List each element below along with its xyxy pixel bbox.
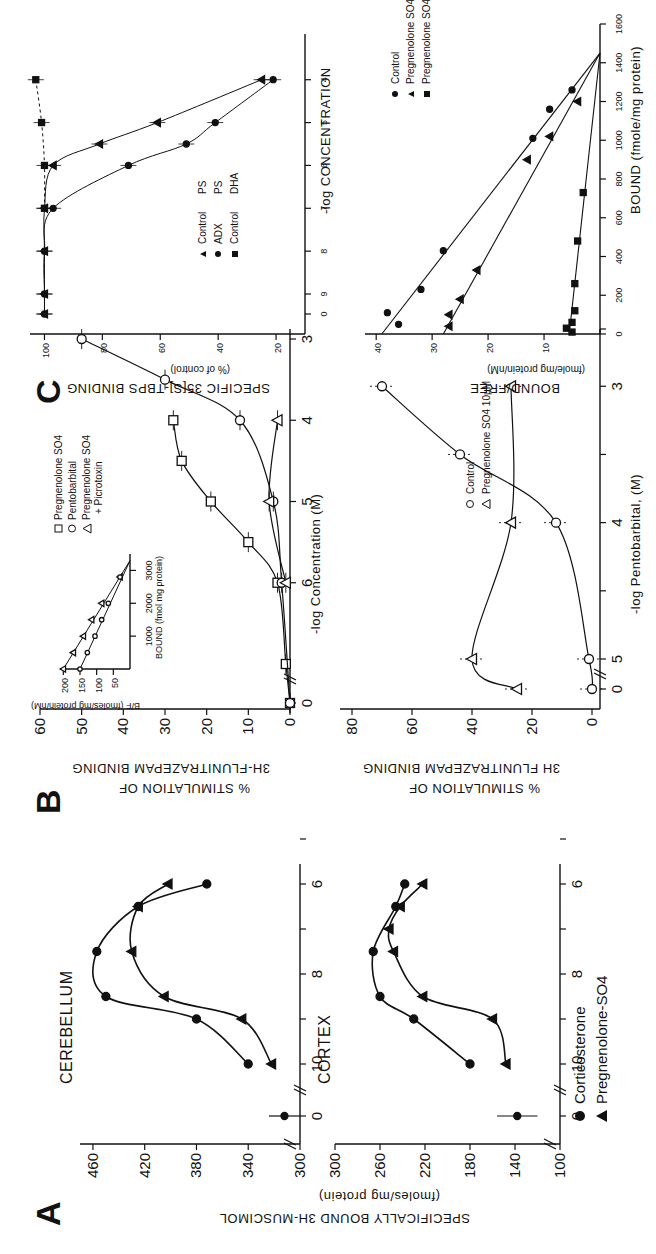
y-tick-label: 60: [403, 718, 420, 735]
data-point: [488, 1014, 497, 1024]
series-line: [36, 80, 45, 209]
data-point: [183, 141, 189, 147]
chart-c-top: 100806040200987654: [28, 34, 329, 358]
panel-b-bottom-legend: Control Pregnenolone SO4 10µM: [465, 381, 492, 509]
legend-item-corticosterone: Corticosterone: [571, 1006, 588, 1104]
y-tick-label: 0: [281, 718, 298, 726]
x-tick-label: 10: [308, 1056, 325, 1073]
x-tick-label: 4: [608, 518, 625, 526]
data-point: [588, 685, 597, 694]
panel-b-top-ylabel2: 3H-FLUNITRAZEPAM BINDING: [72, 761, 270, 776]
y-tick-label: 0: [583, 718, 600, 726]
data-point: [286, 699, 295, 708]
chart-a-cortex: 30026022018014010001086: [326, 839, 585, 1178]
x-tick-label: 6: [319, 163, 329, 168]
data-point: [41, 205, 47, 211]
y-tick-label: 80: [343, 718, 360, 735]
panel-b-top-xlabel: -log Concentration (M): [308, 494, 323, 634]
data-point: [163, 879, 172, 889]
panel-letter-b: B: [29, 789, 67, 814]
series-line: [130, 884, 271, 1064]
y-tick-label: 20: [485, 343, 495, 353]
data-point: [456, 295, 463, 303]
y-tick-label: 200: [60, 678, 70, 693]
data-point: [563, 325, 569, 331]
data-point: [270, 77, 276, 83]
data-point: [41, 311, 47, 317]
legend-item-pentobarbital: Pentobarbital: [67, 461, 78, 520]
data-point: [369, 948, 377, 956]
x-tick-label: 1200: [614, 91, 624, 111]
x-tick-label: 3000: [144, 560, 154, 580]
panel-b-bottom-ylabel1: % STIMULATION OF: [409, 781, 540, 796]
data-point: [169, 416, 178, 425]
x-tick-label: 5: [319, 120, 329, 125]
panel-letter-c: C: [29, 379, 67, 404]
data-point: [530, 135, 536, 141]
legend-item-ps: PS: [213, 180, 224, 194]
panel-c-bottom-legend: Control Pregnenolone SO4 (10µM) Pregneno…: [390, 0, 432, 97]
series-line: [472, 386, 517, 689]
series-line: [44, 80, 273, 314]
data-point: [572, 308, 578, 314]
panel-a-legend: Corticosterone Pregnenolone-SO4: [571, 976, 610, 1122]
panel-c-bottom-ylabel2: (fmole/mg protein/nM): [487, 364, 585, 375]
x-tick-label: 4: [319, 77, 329, 82]
panel-c-top-ylabel2: (% of control): [171, 364, 230, 375]
data-point: [547, 106, 553, 112]
inset-ylabel: B/F (fmoles/mg protein/nM): [31, 701, 140, 711]
data-point: [236, 416, 245, 425]
x-tick-label: 8: [308, 970, 325, 978]
series-line: [372, 884, 470, 1064]
data-point: [575, 238, 581, 244]
data-point: [33, 77, 39, 83]
x-tick-label: 6: [568, 880, 585, 888]
y-tick-label: 340: [239, 1153, 256, 1178]
data-point: [258, 76, 265, 84]
panel-c-top-legend: Control PS ADX PS Control DHA: [197, 173, 240, 257]
regression-line: [443, 53, 600, 334]
legend-item-pregnenolone-so4: Pregnenolone SO4: [53, 434, 64, 520]
x-tick-label: 8: [568, 970, 585, 978]
data-point: [569, 319, 575, 325]
data-point: [456, 450, 465, 459]
data-point: [206, 497, 215, 506]
data-point: [376, 993, 384, 1001]
y-tick-label: 100: [41, 343, 51, 358]
open-square-icon: [55, 525, 62, 532]
data-point: [267, 1059, 276, 1069]
panel-a-ylabel: SPECIFICALLY BOUND 3H-MUSCIMOL: [219, 1211, 470, 1226]
y-tick-label: 60: [31, 718, 48, 735]
filled-circle-icon: [392, 91, 398, 97]
data-point: [396, 321, 402, 327]
data-point: [572, 281, 578, 287]
open-circle-icon: [467, 501, 474, 508]
legend-item-pregnenolone-so4-10um: Pregnenolone SO4 10µM: [481, 381, 492, 494]
legend-item-pregnenolone-so4-picrotoxin: Pregnenolone SO4: [81, 434, 92, 520]
data-point: [99, 618, 103, 622]
data-point: [212, 120, 218, 126]
filled-triangle-icon: [596, 1110, 607, 1122]
x-tick-label: 8: [319, 249, 329, 254]
legend-item-picrotoxin: + Picrotoxin: [93, 461, 104, 514]
legend-item-control-ps: Control: [197, 212, 208, 244]
data-point: [159, 992, 168, 1002]
y-tick-label: 40: [114, 718, 131, 735]
legend-item-adx-ps: ADX: [213, 223, 224, 244]
chart-b-inset-scatchard: 20015010050100020003000B/F (fmoles/mg pr…: [31, 554, 164, 711]
data-point: [514, 1113, 521, 1120]
data-point: [177, 456, 186, 465]
legend-item-pregnenolone-so4-10um: Pregnenolone SO4 (10µM): [405, 0, 416, 84]
data-point: [244, 538, 253, 547]
data-point: [77, 335, 86, 344]
x-tick-label: 0: [608, 685, 625, 693]
y-tick-label: 50: [73, 718, 90, 735]
data-point: [153, 119, 160, 127]
data-point: [569, 87, 575, 93]
legend-item-control: Control: [390, 52, 401, 84]
filled-circle-icon: [575, 1111, 585, 1121]
x-tick-label: 5: [298, 497, 315, 505]
y-tick-label: 60: [157, 343, 167, 353]
x-tick-label: 9: [319, 291, 329, 296]
data-point: [401, 880, 409, 888]
